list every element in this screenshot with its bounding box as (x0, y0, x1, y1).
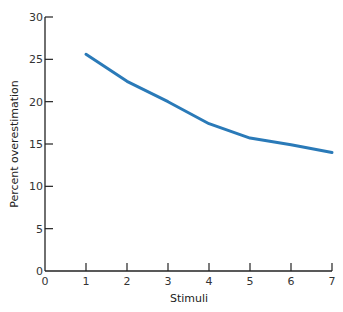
x-tick-label: 5 (247, 275, 254, 288)
y-axis-title: Percent overestimation (8, 80, 21, 208)
line-chart: 051015202530 01234567 Stimuli Percent ov… (0, 0, 343, 312)
x-tick-label: 6 (288, 275, 295, 288)
x-tick-label: 3 (165, 275, 172, 288)
y-tick-label: 25 (29, 53, 43, 66)
y-tick-label: 15 (29, 138, 43, 151)
series-layer (86, 54, 332, 152)
x-tick-label: 7 (329, 275, 336, 288)
y-tick-label: 10 (29, 180, 43, 193)
x-tick-label: 1 (83, 275, 90, 288)
y-tick-label: 20 (29, 96, 43, 109)
y-tick-label: 30 (29, 11, 43, 24)
x-tick-label: 4 (206, 275, 213, 288)
data-line (86, 54, 332, 152)
x-tick-label: 0 (42, 275, 49, 288)
x-axis-title: Stimuli (170, 292, 208, 305)
y-tick-label: 5 (36, 223, 43, 236)
x-axis: 01234567 (42, 263, 336, 288)
y-axis: 051015202530 (29, 11, 53, 278)
x-tick-label: 2 (124, 275, 131, 288)
